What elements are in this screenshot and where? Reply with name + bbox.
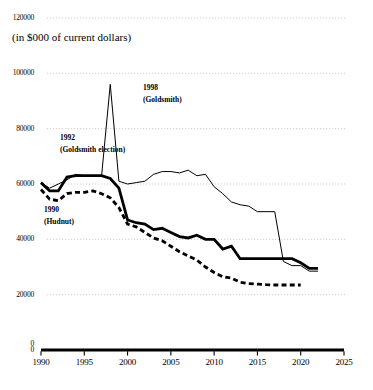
chart-plot-area — [0, 0, 373, 390]
annotation-1998-year: 1998 — [143, 82, 182, 94]
y-axis-tick-label: 80000 — [0, 124, 34, 133]
chart-container: 0200004000060000800001000001200000 19901… — [0, 0, 373, 390]
x-axis-tick-label: 2005 — [154, 357, 188, 367]
x-axis-tick-label: 2010 — [197, 357, 231, 367]
y-axis-tick-label: 120000 — [0, 13, 34, 22]
y-axis-zero-label: 0 — [0, 339, 34, 348]
gridlines — [47, 18, 346, 295]
y-axis-tick-label: 40000 — [0, 234, 34, 243]
annotation-1990: 1990(Hudnut) — [44, 204, 74, 228]
x-axis-tick-label: 2020 — [284, 357, 318, 367]
annotation-1992-year: 1992 — [60, 132, 125, 144]
chart-subtitle: (in $000 of current dollars) — [12, 31, 131, 43]
x-axis — [41, 350, 344, 356]
x-axis-tick-label: 2015 — [240, 357, 274, 367]
x-axis-tick-label: 2000 — [111, 357, 145, 367]
series-line-dashed — [41, 190, 301, 285]
series-line-thin-solid — [41, 84, 318, 271]
y-axis-tick-label: 100000 — [0, 68, 34, 77]
x-axis-tick-label: 2025 — [327, 357, 361, 367]
y-axis-tick-label: 20000 — [0, 290, 34, 299]
annotation-1992: 1992(Goldsmith election) — [60, 132, 125, 156]
y-axis-tick-label: 60000 — [0, 179, 34, 188]
annotation-1992-detail: (Goldsmith election) — [60, 144, 125, 156]
annotation-1990-year: 1990 — [44, 204, 74, 216]
x-axis-tick-label: 1990 — [24, 357, 58, 367]
data-series — [41, 84, 318, 285]
annotation-1998-detail: (Goldsmith) — [143, 94, 182, 106]
x-axis-tick-label: 1995 — [67, 357, 101, 367]
annotation-1990-detail: (Hudnut) — [44, 216, 74, 228]
annotation-1998: 1998(Goldsmith) — [143, 82, 182, 106]
